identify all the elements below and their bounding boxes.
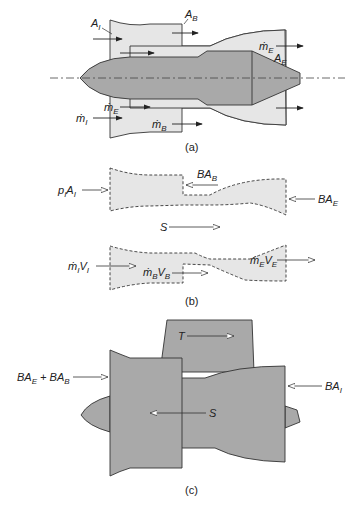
core-nacelle [180, 366, 285, 462]
label-pI-AI: pIAI [57, 184, 77, 199]
label-S-c: S [209, 407, 217, 419]
label-mI-VI: ṁIVI [68, 260, 90, 275]
label-BA-E: BAE [318, 193, 339, 208]
label-BA-I: BAI [325, 380, 343, 395]
rear-plug [285, 406, 300, 428]
label-BA-E-plus-BA-B: BAE + BAB [17, 371, 70, 386]
propulsion-control-volume-diagram: AI AB ṁE AE ṁE ṁI ṁB (a) pIAI BAB BAE S … [0, 0, 354, 507]
caption-c: (c) [185, 484, 198, 496]
label-BA-B: BAB [197, 168, 218, 183]
front-spinner [81, 396, 110, 432]
caption-a: (a) [185, 141, 198, 153]
label-S-b: S [160, 221, 168, 233]
label-A-B: AB [184, 8, 198, 23]
panel-a: AI AB ṁE AE ṁE ṁI ṁB (a) [50, 8, 345, 153]
label-A-I: AI [90, 17, 101, 32]
label-mdot-I: ṁI [76, 112, 88, 127]
caption-b: (b) [185, 295, 198, 307]
panel-b: pIAI BAB BAE S ṁIVI ṁBVB ṁEVE (b) [57, 168, 339, 307]
panel-c: BAE + BAB T BAI S (c) [17, 320, 343, 496]
